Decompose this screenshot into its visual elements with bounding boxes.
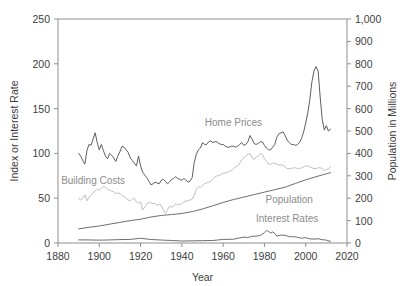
y2-tick-label: 500 bbox=[355, 125, 373, 137]
y-tick-label: 200 bbox=[32, 58, 50, 70]
x-axis-title: Year bbox=[192, 271, 214, 283]
y2-tick-label: 600 bbox=[355, 103, 373, 115]
y2-tick-label: 800 bbox=[355, 58, 373, 70]
home-prices-population-chart: 18801900192019401960198020002020 0501001… bbox=[0, 0, 410, 286]
y-tick-label: 150 bbox=[32, 103, 50, 115]
x-tick-label: 2000 bbox=[294, 250, 318, 262]
y2-tick-label: 0 bbox=[355, 237, 361, 249]
annotation-population: Population bbox=[266, 194, 313, 205]
annotation-interest-rates: Interest Rates bbox=[256, 213, 318, 224]
x-tick-label: 1940 bbox=[170, 250, 194, 262]
y2-tick-label: 400 bbox=[355, 147, 373, 159]
x-tick-label: 1980 bbox=[253, 250, 277, 262]
y-tick-label: 0 bbox=[44, 237, 50, 249]
annotation-home-prices: Home Prices bbox=[205, 117, 262, 128]
x-tick-label: 1880 bbox=[46, 250, 70, 262]
x-tick-label: 2020 bbox=[335, 250, 359, 262]
y2-tick-label: 300 bbox=[355, 170, 373, 182]
x-tick-label: 1960 bbox=[211, 250, 235, 262]
y-tick-label: 250 bbox=[32, 13, 50, 25]
y2-tick-label: 900 bbox=[355, 35, 373, 47]
y-axis-right-title: Population in Millions bbox=[386, 82, 398, 181]
y-axis-left-title: Index or Interest Rate bbox=[8, 80, 20, 181]
annotation-building-costs: Building Costs bbox=[61, 175, 125, 186]
y-tick-label: 100 bbox=[32, 147, 50, 159]
y2-tick-label: 200 bbox=[355, 192, 373, 204]
x-tick-label: 1920 bbox=[129, 250, 153, 262]
x-tick-label: 1900 bbox=[88, 250, 112, 262]
y2-tick-label: 100 bbox=[355, 215, 373, 227]
y2-tick-label: 1,000 bbox=[355, 13, 381, 25]
y2-tick-label: 700 bbox=[355, 80, 373, 92]
y-tick-label: 50 bbox=[38, 192, 50, 204]
chart-root: 18801900192019401960198020002020 0501001… bbox=[0, 0, 410, 286]
